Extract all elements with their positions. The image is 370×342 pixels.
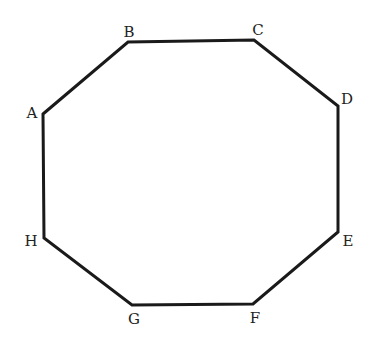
- vertex-label-c: C: [252, 23, 263, 38]
- vertex-label-a: A: [27, 106, 38, 121]
- vertex-label-h: H: [24, 234, 37, 249]
- vertex-label-f: F: [250, 311, 260, 326]
- octagon-outline: [43, 40, 338, 305]
- vertex-label-g: G: [128, 312, 140, 327]
- vertex-label-e: E: [343, 234, 354, 249]
- octagon-diagram: A B C D E F G H: [0, 0, 370, 342]
- vertex-label-d: D: [341, 92, 353, 107]
- vertex-label-b: B: [123, 25, 134, 40]
- octagon-shape: [0, 0, 370, 342]
